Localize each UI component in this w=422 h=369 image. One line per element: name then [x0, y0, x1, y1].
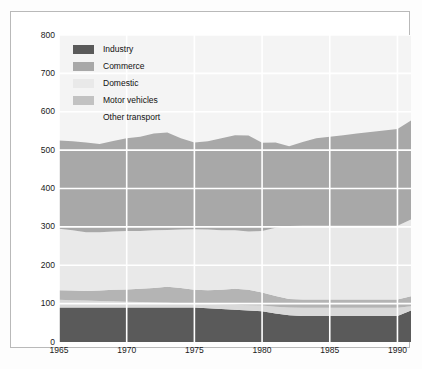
- legend-swatch-icon: [73, 62, 94, 71]
- chart-page: 0100200300400500600700800 Energy supplie…: [0, 0, 422, 369]
- y-tick-label-800: 800: [25, 31, 55, 40]
- legend-item-label: Motor vehicles: [103, 96, 158, 105]
- y-tick-label-100: 100: [25, 299, 55, 308]
- x-tick-label-1970: 1970: [107, 346, 147, 355]
- x-tick-label-1980: 1980: [242, 346, 282, 355]
- legend-item-commerce[interactable]: Commerce: [73, 59, 223, 74]
- y-tick-label-400: 400: [25, 184, 55, 193]
- chart-legend: IndustryCommerceDomesticMotor vehiclesOt…: [73, 42, 223, 127]
- legend-item-other-transport[interactable]: Other transport: [73, 110, 223, 125]
- x-axis: 196519701975198019851990: [59, 342, 411, 360]
- legend-swatch-icon: [73, 79, 94, 88]
- y-tick-label-200: 200: [25, 261, 55, 270]
- legend-item-domestic[interactable]: Domestic: [73, 76, 223, 91]
- legend-item-label: Other transport: [103, 113, 160, 122]
- legend-item-label: Industry: [103, 45, 133, 54]
- y-tick-label-500: 500: [25, 146, 55, 155]
- area-series-commerce: [59, 121, 411, 233]
- x-tick-label-1990: 1990: [377, 346, 417, 355]
- legend-item-industry[interactable]: Industry: [73, 42, 223, 57]
- chart-frame: 0100200300400500600700800 Energy supplie…: [10, 11, 410, 348]
- y-tick-label-600: 600: [25, 107, 55, 116]
- y-axis: 0100200300400500600700800: [11, 35, 59, 342]
- legend-swatch-icon: [73, 96, 94, 105]
- x-tick-label-1965: 1965: [39, 346, 79, 355]
- legend-item-label: Commerce: [103, 62, 145, 71]
- area-series-group: [59, 121, 411, 342]
- legend-item-motor-vehicles[interactable]: Motor vehicles: [73, 93, 223, 108]
- y-tick-label-700: 700: [25, 69, 55, 78]
- legend-swatch-icon: [73, 113, 94, 122]
- legend-item-label: Domestic: [103, 79, 138, 88]
- x-tick-label-1975: 1975: [174, 346, 214, 355]
- x-tick-label-1985: 1985: [310, 346, 350, 355]
- legend-swatch-icon: [73, 45, 94, 54]
- y-tick-label-300: 300: [25, 222, 55, 231]
